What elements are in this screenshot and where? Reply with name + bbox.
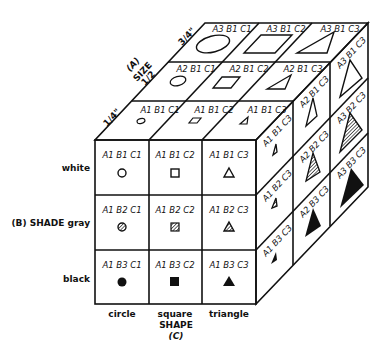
small-triangle-icon [240, 117, 248, 124]
medium-circle-icon [169, 75, 187, 88]
large-circle-icon [195, 32, 232, 56]
cell-label: A3 B1 C1 [211, 24, 251, 34]
shape-axis: circle square SHAPE (C) triangle [108, 309, 249, 341]
cell-label: A1 B3 C1 [101, 260, 141, 270]
gray-triangle-icon [224, 222, 234, 231]
black-circle-icon [118, 278, 127, 287]
cell-label: A1 B2 C1 [101, 205, 141, 215]
white-triangle-icon [224, 168, 234, 177]
shape-axis-title: SHAPE [159, 320, 193, 330]
shade-black-label: black [63, 274, 91, 284]
cell-label: A2 B1 C2 [228, 64, 268, 74]
small-circle-icon [136, 118, 145, 125]
cell-label: A3 B1 C2 [265, 24, 305, 34]
white-square-icon [171, 169, 179, 177]
cell-label: A3 B1 C3 [319, 24, 359, 34]
cell-label: A1 B1 C3 [246, 105, 286, 115]
size-three-quarter-label: 3/4" [176, 26, 197, 48]
cell-label: A1 B3 C2 [154, 260, 194, 270]
large-triangle-icon [297, 32, 334, 53]
shade-gray-label: (B) SHADE gray [12, 218, 91, 228]
front-face-labels: A1 B1 C1 A1 B1 C2 A1 B1 C3 A1 B2 C1 A1 B… [101, 150, 248, 270]
large-square-icon [244, 35, 292, 53]
shape-circle-label: circle [108, 309, 135, 319]
medium-square-icon [213, 77, 240, 88]
cell-label: A1 B1 C2 [154, 150, 194, 160]
black-triangle-icon [223, 276, 235, 286]
cell-label: A1 B3 C3 [208, 260, 248, 270]
cell-label: A1 B1 C1 [139, 105, 179, 115]
cell-label: A1 B2 C3 [208, 205, 248, 215]
cell-label: A2 B1 C1 [175, 64, 215, 74]
size-quarter-label: 1/4" [101, 107, 122, 129]
cell-label: A1 B1 C2 [193, 105, 233, 115]
shape-triangle-label: triangle [209, 309, 249, 319]
small-white-triangle-icon [273, 144, 277, 155]
top-face-content: A1 B1 C1 A1 B1 C2 A1 B1 C3 A2 B1 C1 A2 B… [136, 24, 359, 124]
shade-axis: white (B) SHADE gray black [12, 163, 92, 284]
small-gray-triangle-icon [272, 198, 277, 208]
white-circle-icon [118, 169, 126, 177]
small-square-icon [189, 118, 201, 123]
cell-label: A1 B1 C1 [101, 150, 141, 160]
gray-circle-icon [118, 223, 126, 231]
gray-square-icon [171, 223, 179, 231]
factorial-cube-diagram: A1 B1 C1 A1 B1 C2 A1 B1 C3 A1 B2 C1 A1 B… [0, 0, 386, 356]
small-black-triangle-icon [271, 252, 277, 264]
black-square-icon [170, 277, 179, 286]
shade-white-label: white [62, 163, 90, 173]
cell-label: A2 B1 C3 [282, 64, 322, 74]
medium-triangle-icon [267, 75, 291, 89]
cell-label: A1 B2 C2 [154, 205, 194, 215]
cell-label: A1 B1 C3 [208, 150, 248, 160]
shape-square-label: square [158, 309, 193, 319]
shape-axis-code: (C) [169, 331, 184, 341]
